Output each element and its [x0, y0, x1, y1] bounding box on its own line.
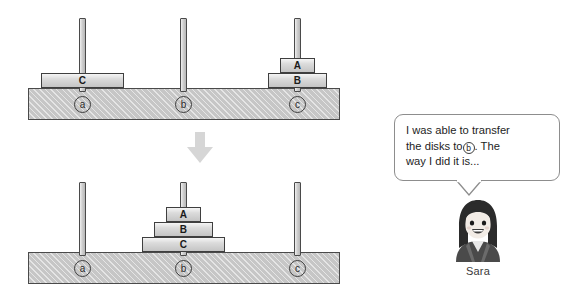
- speech-line-2-after: . The: [475, 140, 500, 152]
- disk-label: C: [180, 240, 188, 250]
- peg-b-circle-text: b: [466, 144, 471, 153]
- peg-label-a-after: a: [74, 260, 91, 277]
- peg-a-after: [79, 182, 86, 256]
- disk-a-on-peg-c: A: [280, 58, 315, 73]
- peg-label-text: c: [295, 264, 300, 274]
- peg-label-text: a: [80, 100, 86, 110]
- character-name-label: Sara: [430, 265, 526, 277]
- peg-label-b-after: b: [175, 260, 192, 277]
- disk-b-on-peg-b: B: [154, 222, 213, 237]
- peg-label-c-after: c: [289, 260, 306, 277]
- peg-label-b-before: b: [175, 96, 192, 113]
- peg-label-c-before: c: [289, 96, 306, 113]
- peg-label-text: b: [181, 264, 187, 274]
- down-arrow-icon: [185, 132, 215, 164]
- disk-label: C: [79, 76, 87, 86]
- disk-c-on-peg-a: C: [41, 73, 124, 88]
- speech-line-2-before: the disks to: [406, 140, 463, 152]
- illustration-stage: C B A a b c C: [0, 0, 575, 289]
- disk-c-on-peg-b: C: [142, 237, 225, 252]
- hanoi-diagram-after: C B A a b c: [26, 176, 346, 284]
- peg-label-a-before: a: [74, 96, 91, 113]
- peg-c-after: [294, 182, 301, 256]
- peg-b-circle-inline: b: [463, 142, 475, 154]
- speech-line-3: way I did it is...: [406, 154, 549, 170]
- peg-label-text: b: [181, 100, 187, 110]
- disk-label: A: [180, 210, 188, 220]
- hanoi-diagram-before: C B A a b c: [26, 12, 346, 120]
- peg-label-text: a: [80, 264, 86, 274]
- speech-bubble: I was able to transfer the disks tob. Th…: [394, 114, 560, 181]
- disk-label: B: [294, 76, 302, 86]
- disk-a-on-peg-b: A: [166, 207, 201, 222]
- disk-b-on-peg-c: B: [268, 73, 327, 88]
- disk-label: A: [294, 61, 302, 71]
- disk-label: B: [180, 225, 188, 235]
- peg-label-text: c: [295, 100, 300, 110]
- speech-line-2: the disks tob. The: [406, 139, 549, 155]
- speech-line-1: I was able to transfer: [406, 123, 549, 139]
- peg-b-before: [180, 18, 187, 92]
- speech-bubble-tail: [456, 180, 482, 196]
- girl-avatar-icon: [444, 196, 512, 262]
